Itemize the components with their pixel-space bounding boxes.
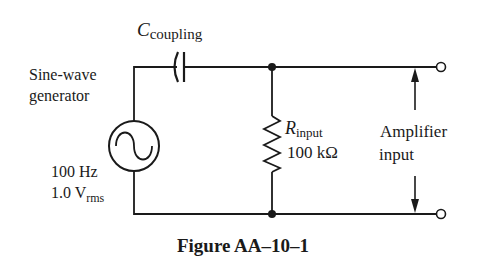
- resistor-value: 100 kΩ: [287, 143, 338, 162]
- generator-frequency: 100 Hz: [51, 163, 98, 180]
- generator-voltage: 1.0 Vrms: [51, 184, 105, 205]
- arrow-up-icon: [411, 68, 419, 110]
- wire-top-left: [134, 67, 177, 121]
- resistor-label: Rinput: [284, 118, 323, 140]
- amplifier-label-line1: Amplifier: [380, 122, 447, 141]
- arrow-down-icon: [411, 176, 419, 213]
- generator-label-line1: Sine-wave: [29, 66, 97, 83]
- generator-label-line2: generator: [29, 87, 90, 105]
- figure-caption: Figure AA–10–1: [177, 235, 309, 256]
- input-resistor-icon: [264, 67, 280, 214]
- output-terminal-bottom[interactable]: [437, 210, 446, 219]
- wire-bottom: [134, 171, 436, 214]
- capacitor-label: Ccoupling: [137, 19, 203, 42]
- circuit-diagram: Ccoupling Sine-wave generator 100 Hz 1.0…: [0, 0, 479, 267]
- output-terminal-top[interactable]: [437, 63, 446, 72]
- amplifier-label-line2: input: [379, 145, 414, 164]
- sine-generator-icon: [109, 121, 159, 171]
